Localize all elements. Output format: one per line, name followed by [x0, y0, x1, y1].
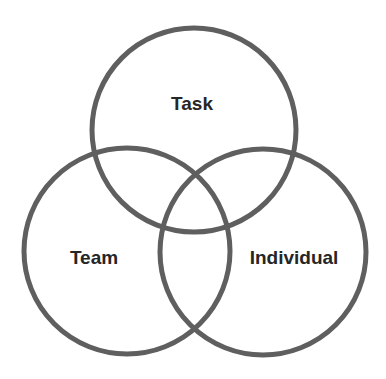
individual-label: Individual	[250, 247, 339, 268]
task-label: Task	[171, 93, 213, 114]
venn-diagram: Task Team Individual	[0, 0, 386, 379]
background	[0, 0, 386, 379]
team-label: Team	[70, 247, 118, 268]
